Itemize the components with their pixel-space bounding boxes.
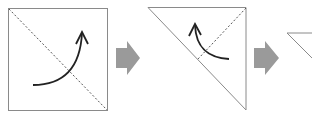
next-step-arrow-icon xyxy=(116,41,140,75)
step-3-shape-partial xyxy=(287,33,312,58)
fold-diagram xyxy=(0,0,312,125)
step-1-square xyxy=(9,9,108,111)
step-2-triangle xyxy=(148,8,246,111)
next-step-arrow-icon xyxy=(254,41,279,75)
